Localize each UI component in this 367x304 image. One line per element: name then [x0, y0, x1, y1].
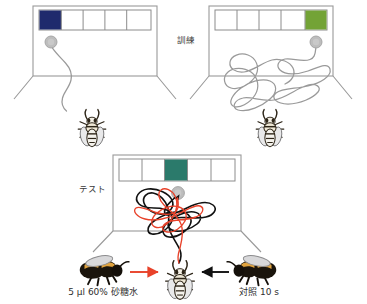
stimulus-strip — [119, 159, 235, 181]
stimulus-strip — [215, 10, 327, 30]
feeder-disc-inner — [48, 39, 54, 45]
treatment-right-label: 対照 10 s — [239, 286, 279, 297]
stimulus-strip — [39, 10, 151, 30]
feeder-disc-inner — [175, 190, 182, 197]
feeder-disc-inner — [313, 39, 319, 45]
experiment-schematic-figure: 訓練 テスト 5 µl 60% 砂糖水 — [0, 0, 367, 304]
treatment-left-label: 5 µl 60% 砂糖水 — [68, 286, 138, 297]
stimulus-cell-5-active — [305, 11, 326, 30]
training-phase-label: 訓練 — [177, 35, 195, 45]
stimulus-cell-1-active — [40, 11, 62, 30]
test-phase-label: テスト — [79, 184, 106, 194]
stimulus-cell-3-active — [165, 160, 188, 181]
